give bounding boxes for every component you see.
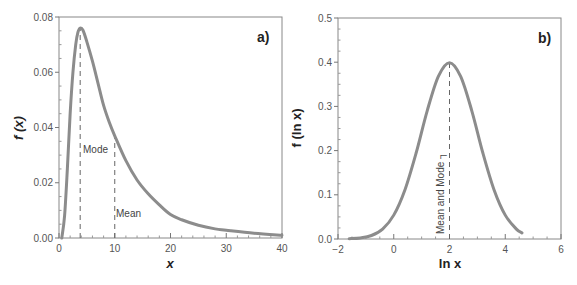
panel-b-x-axis-title: ln x (439, 256, 462, 271)
panel-a-y-axis-title: f (x) (11, 116, 26, 140)
y-tick-label: 0.4 (318, 57, 332, 68)
x-tick-label: 4 (502, 244, 508, 255)
y-tick-label: 0.06 (34, 67, 54, 78)
y-tick-label: 0.0 (318, 234, 332, 245)
y-tick-label: 0.00 (34, 233, 54, 244)
panel-b-y-axis-title: f (ln x) (289, 109, 304, 148)
mode-label: Mode (83, 144, 108, 155)
panel-a-plot-frame (59, 17, 282, 238)
y-tick-label: 0.02 (34, 177, 54, 188)
y-tick-label: 0.3 (318, 101, 332, 112)
x-tick-label: 6 (558, 244, 564, 255)
x-tick-label: 20 (165, 243, 177, 254)
x-tick-label: 10 (109, 243, 121, 254)
x-tick-label: 0 (391, 244, 397, 255)
panel-b-label: b) (538, 30, 551, 46)
x-tick-label: 2 (447, 244, 453, 255)
mean-label: Mean (116, 208, 141, 219)
x-tick-label: 40 (276, 243, 288, 254)
y-tick-label: 0.08 (34, 12, 54, 23)
mean-and-mode-label: Mean and Mode ┐ (435, 152, 447, 234)
y-tick-label: 0.2 (318, 145, 332, 156)
y-tick-label: 0.5 (318, 13, 332, 24)
x-tick-label: 30 (221, 243, 233, 254)
y-tick-label: 0.04 (34, 122, 54, 133)
y-tick-label: 0.1 (318, 189, 332, 200)
panel-a-x-axis-title: x (165, 256, 174, 271)
panel-b-ticks (334, 18, 561, 239)
panel-a-annotation-lines (80, 28, 115, 238)
chart-figure: 0102030400.000.020.040.060.08 Mode Mean … (0, 0, 577, 285)
panel-a-density-curve (62, 28, 282, 238)
panel-a-lognormal: 0102030400.000.020.040.060.08 Mode Mean … (11, 12, 288, 272)
x-tick-label: 0 (56, 243, 62, 254)
panel-a-label: a) (257, 29, 269, 45)
x-tick-label: −2 (332, 244, 344, 255)
panel-b-normal: −202460.00.10.20.30.40.5 Mean and Mode ┐… (289, 13, 564, 272)
panel-a-tick-labels: 0102030400.000.020.040.060.08 (34, 12, 288, 255)
